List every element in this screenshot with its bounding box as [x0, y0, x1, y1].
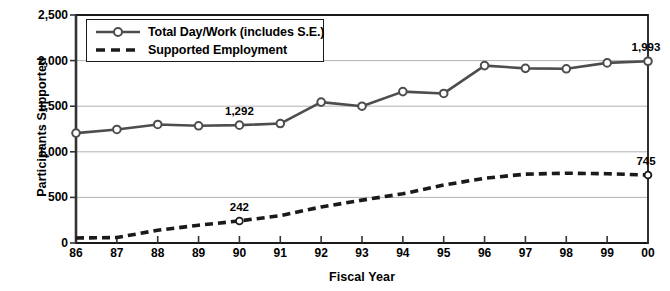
- line-chart: Participants Supported 05001,0001,5002,0…: [0, 0, 670, 291]
- value-label: 242: [230, 201, 249, 213]
- data-point-marker: [399, 88, 407, 96]
- series-line-2: [76, 173, 648, 238]
- data-point-marker: [195, 122, 203, 130]
- data-point-marker: [113, 126, 121, 134]
- data-point-marker: [603, 59, 611, 67]
- value-label: 1,292: [225, 105, 254, 117]
- legend-swatch-dashed-line-icon: [95, 43, 141, 57]
- data-point-marker: [72, 129, 80, 137]
- legend-item-supported-employment: Supported Employment: [95, 41, 287, 59]
- legend-swatch-solid-line-icon: [95, 25, 141, 39]
- data-point-marker: [522, 65, 530, 73]
- data-point-marker: [236, 218, 243, 225]
- data-point-marker: [236, 121, 244, 129]
- value-label: 745: [636, 155, 655, 167]
- data-point-marker: [154, 121, 162, 129]
- data-point-marker: [562, 65, 570, 73]
- legend-item-total-day-work: Total Day/Work (includes S.E.): [95, 23, 324, 41]
- data-point-marker: [644, 57, 652, 65]
- data-point-marker: [276, 120, 284, 128]
- data-point-marker: [645, 172, 652, 179]
- data-point-marker: [317, 98, 325, 106]
- data-point-marker: [358, 102, 366, 110]
- value-label: 1,993: [632, 41, 661, 53]
- legend-label-supported-employment: Supported Employment: [148, 43, 287, 57]
- data-point-marker: [481, 62, 489, 70]
- data-point-marker: [440, 90, 448, 98]
- legend: Total Day/Work (includes S.E.) Supported…: [86, 19, 324, 62]
- legend-label-total-day-work: Total Day/Work (includes S.E.): [148, 25, 324, 39]
